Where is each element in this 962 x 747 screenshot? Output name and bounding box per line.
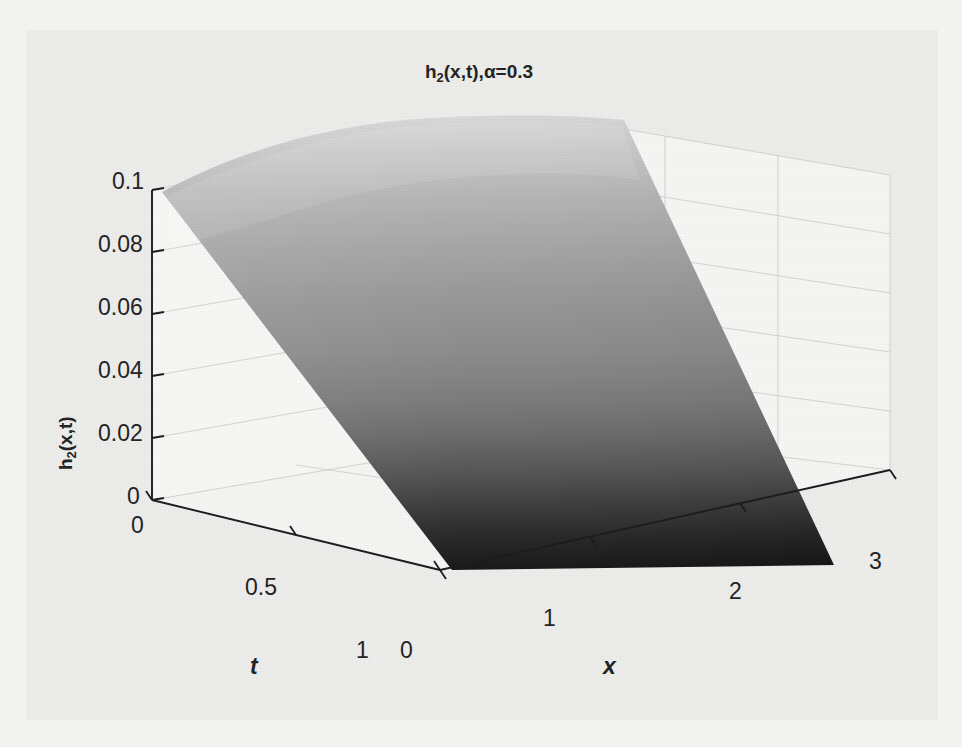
z-tick-label: 0: [127, 485, 140, 508]
z-tick-label: 0.1: [112, 170, 144, 193]
x-tick-label: 3: [869, 550, 882, 573]
z-tick-label: 0.04: [98, 359, 143, 382]
z-axis-label: h2(x,t): [56, 416, 75, 470]
z-tick-label: 0.02: [98, 422, 143, 445]
t-tick-label: 0: [131, 514, 144, 537]
surface-plot-canvas: [0, 0, 962, 747]
t-tick-label: 1: [356, 639, 369, 662]
x-axis-label: x: [603, 655, 616, 678]
x-tick-label: 1: [543, 607, 556, 630]
z-tick-label: 0.06: [98, 296, 143, 319]
t-tick-label: 0.5: [245, 576, 277, 599]
plot-title: h2(x,t),α=0.3: [425, 62, 533, 81]
z-tick-label: 0.08: [98, 233, 143, 256]
x-tick-label: 0: [400, 639, 413, 662]
figure-page: h2(x,t),α=0.3 h2(x,t) 0.1 0.08 0.06 0.04…: [0, 0, 962, 747]
t-axis-label: t: [250, 655, 258, 678]
x-tick-label: 2: [729, 580, 742, 603]
